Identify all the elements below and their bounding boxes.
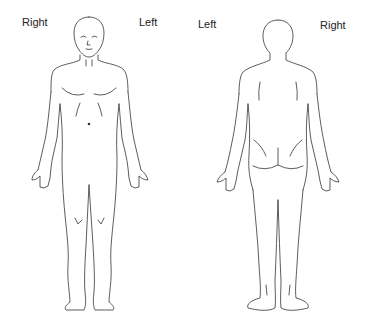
- front-body-figure: [32, 17, 148, 310]
- back-body-figure: [217, 20, 339, 310]
- body-diagram: [0, 0, 368, 324]
